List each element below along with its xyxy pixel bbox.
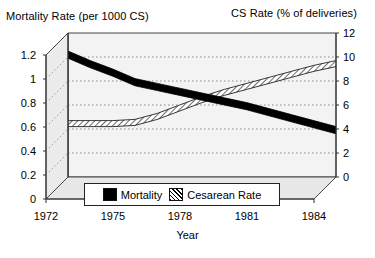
right-tick-8: 8	[343, 75, 371, 87]
legend-label-cesarean-rate: Cesarean Rate	[187, 189, 261, 201]
right-tick-4: 4	[343, 123, 371, 135]
chart-container: Mortality Rate (per 1000 CS) CS Rate (% …	[0, 0, 375, 258]
right-tick-6: 6	[343, 99, 371, 111]
left-tick-0_8: 0.8	[8, 97, 36, 109]
left-tick-0_2: 0.2	[8, 169, 36, 181]
x-axis-title: Year	[0, 229, 375, 241]
chart-legend: Mortality Cesarean Rate	[84, 183, 280, 206]
left-tick-0: 0	[8, 193, 36, 205]
legend-label-mortality: Mortality	[121, 189, 163, 201]
right-tick-12: 12	[343, 27, 371, 39]
plot-left-wall	[46, 33, 68, 199]
legend-item-cesarean-rate: Cesarean Rate	[169, 188, 261, 201]
x-tick-1972: 1972	[24, 210, 68, 222]
left-tick-1: 1	[8, 73, 36, 85]
left-tick-1_2: 1.2	[8, 49, 36, 61]
solid-black-swatch	[103, 188, 117, 201]
legend-item-mortality: Mortality	[103, 188, 163, 201]
x-tick-1978: 1978	[158, 210, 202, 222]
right-tick-0: 0	[343, 171, 371, 183]
x-tick-1981: 1981	[225, 210, 269, 222]
x-tick-1975: 1975	[91, 210, 135, 222]
left-tick-0_4: 0.4	[8, 145, 36, 157]
x-tick-1984: 1984	[292, 210, 336, 222]
right-tick-2: 2	[343, 147, 371, 159]
right-tick-10: 10	[343, 51, 371, 63]
hatched-swatch	[169, 188, 183, 201]
left-tick-0_6: 0.6	[8, 121, 36, 133]
